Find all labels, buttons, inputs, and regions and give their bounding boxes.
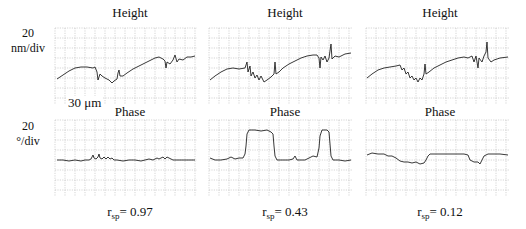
height-plot-3 — [366, 28, 510, 104]
rsp-value: = 0.12 — [430, 204, 463, 219]
phase-scale-value: 20 — [22, 120, 34, 132]
height-plot-2 — [209, 28, 353, 104]
height-title-1: Height — [112, 6, 147, 19]
phase-scale-unit: °/div — [16, 135, 39, 147]
rsp-label-2: rsp= 0.43 — [262, 205, 308, 221]
rsp-label-3: rsp= 0.12 — [417, 205, 463, 221]
phase-plot-2 — [209, 120, 353, 196]
height-scale-value: 20 — [22, 27, 34, 39]
height-scale-unit: nm/div — [11, 42, 45, 54]
rsp-value: = 0.43 — [275, 204, 308, 219]
rsp-label-1: rsp= 0.97 — [107, 205, 153, 221]
phase-plot-3 — [366, 120, 510, 196]
phase-title-2: Phase — [270, 105, 300, 118]
phase-plot-1 — [55, 120, 197, 196]
lateral-scale-label: 30 μm — [66, 96, 103, 109]
height-title-2: Height — [267, 6, 302, 19]
phase-title-1: Phase — [115, 105, 145, 118]
afm-figure: 20 nm/div 20 °/div Height Height Height … — [0, 0, 526, 229]
rsp-value: = 0.97 — [120, 204, 153, 219]
height-plot-1 — [55, 28, 197, 104]
phase-title-3: Phase — [425, 105, 455, 118]
height-title-3: Height — [422, 6, 457, 19]
